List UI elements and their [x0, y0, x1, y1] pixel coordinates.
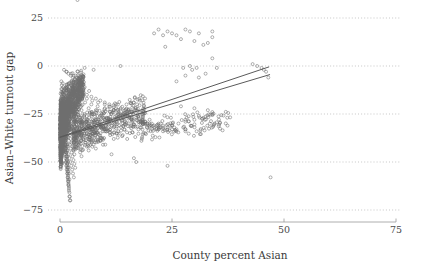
- data-point: [91, 99, 94, 102]
- data-point: [195, 130, 198, 133]
- data-point: [211, 30, 214, 33]
- y-tick-label: −50: [23, 156, 43, 167]
- data-point: [226, 116, 229, 119]
- data-point: [208, 127, 211, 130]
- data-point: [187, 132, 190, 135]
- y-tick-label: −75: [23, 204, 43, 215]
- data-point: [120, 129, 123, 132]
- data-point: [70, 151, 73, 154]
- data-point: [94, 147, 97, 150]
- data-point: [193, 40, 196, 43]
- data-point: [179, 38, 182, 41]
- x-tick-label: 25: [166, 224, 178, 235]
- data-point: [86, 111, 89, 114]
- data-point: [126, 131, 129, 134]
- data-point: [197, 32, 200, 35]
- data-point: [229, 116, 232, 119]
- fit-lines-group: [60, 67, 270, 137]
- data-point: [73, 153, 76, 156]
- data-point: [192, 134, 195, 137]
- data-point: [99, 99, 102, 102]
- data-point: [90, 95, 93, 98]
- data-point: [84, 101, 87, 104]
- data-point: [74, 166, 77, 169]
- data-point: [170, 133, 173, 136]
- data-point: [269, 176, 272, 179]
- data-point: [125, 103, 128, 106]
- data-point: [180, 119, 183, 122]
- data-point: [151, 138, 154, 141]
- data-point: [195, 66, 198, 69]
- data-point: [175, 80, 178, 83]
- data-point: [215, 66, 218, 69]
- data-point: [211, 36, 214, 39]
- data-point: [193, 107, 196, 110]
- data-point: [221, 129, 224, 132]
- x-axis-group: [60, 219, 396, 223]
- x-axis-title: County percent Asian: [172, 249, 287, 261]
- gridlines-group: [48, 18, 401, 210]
- plot-canvas: 250−25−50−75 0255075 County percent Asia…: [0, 0, 421, 265]
- data-point: [164, 45, 167, 48]
- data-point: [71, 155, 74, 158]
- y-tick-label: −25: [23, 108, 43, 119]
- data-point: [140, 139, 143, 142]
- data-point: [163, 114, 166, 117]
- x-tick-labels-group: 0255075: [57, 224, 402, 235]
- data-point: [166, 164, 169, 167]
- data-point: [162, 34, 165, 37]
- y-tick-label: 0: [37, 60, 43, 71]
- data-point: [158, 136, 161, 139]
- data-point: [94, 97, 97, 100]
- data-point: [104, 143, 107, 146]
- data-point: [67, 189, 70, 192]
- data-point: [188, 30, 191, 33]
- data-points-group: [59, 0, 272, 202]
- data-point: [206, 109, 209, 112]
- x-tick-label: 50: [278, 224, 290, 235]
- data-point: [70, 164, 73, 167]
- data-point: [72, 176, 75, 179]
- data-point: [96, 105, 99, 108]
- data-point: [166, 30, 169, 33]
- data-point: [206, 41, 209, 44]
- data-point: [193, 126, 196, 129]
- data-point: [193, 118, 196, 121]
- data-point: [224, 122, 227, 125]
- data-point: [171, 32, 174, 35]
- data-point: [184, 128, 187, 131]
- data-point: [148, 118, 151, 121]
- data-point: [80, 155, 83, 158]
- data-point: [71, 168, 74, 171]
- data-point: [191, 68, 194, 71]
- data-point: [182, 66, 185, 69]
- x-tick-label: 75: [390, 224, 402, 235]
- data-point: [72, 159, 75, 162]
- data-point: [267, 76, 270, 79]
- data-point: [76, 0, 79, 2]
- data-point: [92, 68, 95, 71]
- y-tick-label: 25: [31, 12, 43, 23]
- data-point: [200, 121, 203, 124]
- data-point: [157, 28, 160, 31]
- y-axis-title: Asian–White turnout gap: [3, 52, 15, 186]
- data-point: [73, 162, 76, 165]
- data-point: [88, 89, 91, 92]
- data-point: [153, 32, 156, 35]
- data-point: [116, 136, 119, 139]
- data-point: [126, 137, 129, 140]
- data-point: [90, 103, 93, 106]
- data-point: [204, 72, 207, 75]
- x-tick-label: 0: [57, 224, 63, 235]
- data-point: [210, 120, 213, 123]
- scatter-plot-figure: 250−25−50−75 0255075 County percent Asia…: [0, 0, 421, 265]
- data-point: [132, 157, 135, 160]
- data-point: [83, 66, 86, 69]
- data-point: [197, 76, 200, 79]
- data-point: [85, 97, 88, 100]
- data-point: [103, 101, 106, 104]
- data-point: [151, 134, 154, 137]
- data-point: [184, 28, 187, 31]
- data-point: [147, 129, 150, 132]
- data-point: [251, 63, 254, 66]
